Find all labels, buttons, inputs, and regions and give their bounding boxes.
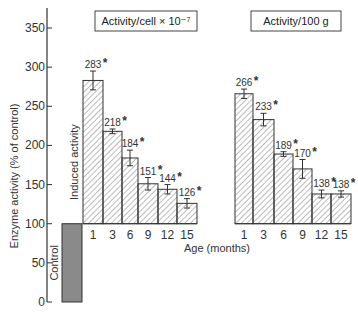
significance-marker: *	[197, 184, 202, 198]
significance-marker: *	[273, 98, 278, 112]
x-tick-label: 12	[161, 228, 175, 242]
control-bar: ControlInduced activity	[48, 124, 82, 302]
y-tick-label: 0	[38, 295, 45, 309]
value-label: 170	[294, 148, 311, 159]
significance-marker: *	[312, 145, 317, 159]
y-tick-label: 100	[25, 217, 45, 231]
x-tick-label: 15	[334, 228, 348, 242]
x-tick-label: 1	[90, 228, 97, 242]
y-axis-title: Enzyme activity (% of control)	[8, 104, 20, 249]
bar	[83, 80, 103, 223]
bar	[122, 158, 138, 224]
value-label: 126	[179, 187, 196, 198]
x-tick-label: 3	[260, 228, 267, 242]
bar	[274, 154, 293, 224]
x-axis-title: Age (months)	[184, 242, 250, 254]
value-label: 189	[275, 140, 292, 151]
y-tick-label: 350	[25, 21, 45, 35]
x-tick-label: 9	[145, 228, 152, 242]
enzyme-activity-chart: 050100150200250300350 ControlInduced act…	[0, 0, 358, 315]
x-tick-label: 6	[280, 228, 287, 242]
x-tick-label: 12	[315, 228, 329, 242]
induced-activity-label: Induced activity	[68, 124, 80, 200]
control-label: Control	[48, 245, 60, 280]
panel-title: Activity/100 g	[263, 15, 328, 27]
value-label: 151	[140, 166, 157, 177]
significance-marker: *	[103, 56, 108, 70]
y-tick-label: 150	[25, 178, 45, 192]
bar	[312, 194, 331, 224]
x-tick-label: 3	[109, 228, 116, 242]
x-tick-label: 6	[127, 228, 134, 242]
y-tick-label: 250	[25, 99, 45, 113]
bar	[253, 120, 274, 224]
panel-title: Activity/cell × 10⁻⁷	[102, 15, 191, 27]
value-label: 233	[255, 101, 272, 112]
y-tick-label: 300	[25, 60, 45, 74]
bar	[331, 194, 351, 224]
x-tick-label: 15	[180, 228, 194, 242]
value-label: 138	[333, 179, 350, 190]
significance-marker: *	[122, 114, 127, 128]
value-label: 184	[122, 138, 139, 149]
bar	[235, 94, 253, 224]
significance-marker: *	[140, 135, 145, 149]
value-label: 218	[104, 117, 121, 128]
significance-marker: *	[351, 176, 356, 190]
panels: Activity/cell × 10⁻⁷283*1218*3184*6151*9…	[83, 11, 356, 242]
bar	[103, 131, 122, 223]
value-label: 266	[236, 77, 253, 88]
y-tick-label: 200	[25, 138, 45, 152]
significance-marker: *	[254, 74, 259, 88]
significance-marker: *	[177, 170, 182, 184]
value-label: 138	[313, 178, 330, 189]
x-tick-label: 1	[241, 228, 248, 242]
panel-2: Activity/100 g266*1233*3189*6170*9138*12…	[235, 11, 356, 242]
y-tick-label: 50	[32, 256, 46, 270]
panel-1: Activity/cell × 10⁻⁷283*1218*3184*6151*9…	[83, 11, 202, 242]
value-label: 283	[85, 59, 102, 70]
x-tick-label: 9	[299, 228, 306, 242]
value-label: 144	[159, 173, 176, 184]
